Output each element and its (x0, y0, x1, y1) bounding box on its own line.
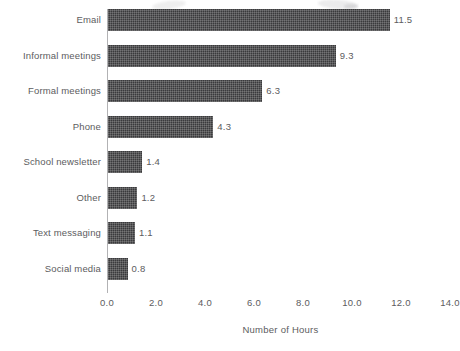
category-label: Informal meetings (23, 45, 101, 67)
bar-row: Informal meetings 9.3 (0, 45, 459, 81)
category-label: Social media (45, 258, 101, 280)
x-tick-label: 2.0 (149, 297, 163, 308)
value-label: 4.3 (217, 116, 231, 138)
bar (108, 116, 213, 138)
value-label: 0.8 (132, 258, 146, 280)
x-axis-title-text: Number of Hours (242, 324, 318, 335)
bar-rows: Email 11.5 Informal meetings 9.3 Formal … (0, 9, 459, 293)
bar-row: Other 1.2 (0, 187, 459, 223)
x-tick-label: 0.0 (100, 297, 114, 308)
category-label: Phone (73, 116, 101, 138)
x-tick-label: 8.0 (296, 297, 310, 308)
bar-row: Email 11.5 (0, 9, 459, 45)
x-tick-label: 6.0 (247, 297, 261, 308)
bar (108, 151, 142, 173)
category-label: Formal meetings (28, 80, 101, 102)
bar-row: Text messaging 1.1 (0, 222, 459, 258)
bar-row: Phone 4.3 (0, 116, 459, 152)
value-label: 1.1 (139, 222, 153, 244)
bar-row: Social media 0.8 (0, 258, 459, 294)
value-label: 6.3 (266, 80, 280, 102)
value-label: 11.5 (394, 9, 413, 31)
value-label: 1.4 (146, 151, 160, 173)
x-tick-label: 10.0 (342, 297, 361, 308)
value-label: 9.3 (340, 45, 354, 67)
value-label: 1.2 (141, 187, 155, 209)
bar (108, 80, 262, 102)
bar (108, 187, 137, 209)
bar (108, 45, 336, 67)
bar (108, 222, 135, 244)
x-tick-label: 4.0 (198, 297, 212, 308)
bar-row: School newsletter 1.4 (0, 151, 459, 187)
category-label: Other (76, 187, 101, 209)
x-tick-label: 14.0 (440, 297, 459, 308)
x-axis-title: Number of Hours (0, 324, 459, 335)
x-tick-label: 12.0 (391, 297, 410, 308)
category-label: Text messaging (33, 222, 101, 244)
bar-row: Formal meetings 6.3 (0, 80, 459, 116)
x-axis-ticks: 0.0 2.0 4.0 6.0 8.0 10.0 12.0 14.0 (0, 297, 459, 311)
category-label: Email (76, 9, 101, 31)
bar (108, 258, 128, 280)
category-label: School newsletter (23, 151, 101, 173)
bar (108, 9, 390, 31)
